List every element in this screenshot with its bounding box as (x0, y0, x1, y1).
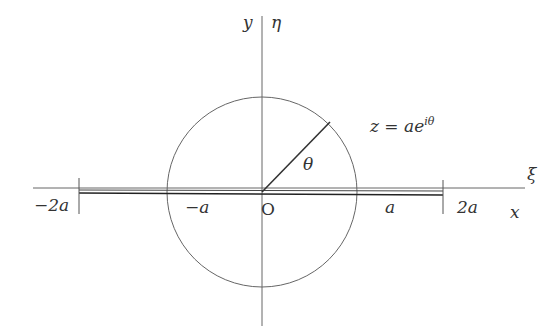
circle-equation: z = aeiθ (370, 116, 434, 135)
slit-upper-line (79, 190, 443, 191)
equation-base: z = ae (370, 116, 424, 136)
radius-line (262, 122, 330, 192)
slit-lower-line (79, 193, 443, 195)
x-axis-label: x (510, 204, 520, 221)
equation-exponent: iθ (424, 115, 434, 128)
tick-label-2a: 2a (457, 199, 478, 216)
origin-label: O (261, 201, 275, 218)
y-axis-label: y (243, 14, 253, 31)
angle-theta-label: θ (303, 156, 313, 173)
xi-axis-label: ξ (527, 166, 536, 183)
tick-label-minus-a: −a (185, 199, 209, 216)
eta-axis-label: η (271, 14, 281, 31)
tick-label-a: a (385, 199, 395, 216)
diagram-canvas (0, 0, 560, 336)
tick-label-minus-2a: −2a (34, 197, 69, 214)
